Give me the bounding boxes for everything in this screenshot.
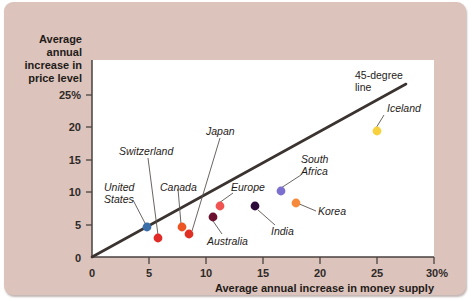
point-label-europe: Europe xyxy=(231,181,265,193)
data-point-canada[interactable] xyxy=(178,223,187,232)
ytick-label-10: 10 xyxy=(69,186,81,198)
xtick-label-10: 10 xyxy=(200,267,212,279)
point-label-united-states-line-1: United xyxy=(104,181,136,193)
ytick-label-20: 20 xyxy=(69,121,81,133)
data-point-korea[interactable] xyxy=(292,199,301,208)
y-axis-title-line-3: increase in xyxy=(25,59,83,71)
ytick-label-0: 0 xyxy=(75,252,81,264)
point-label-iceland: Iceland xyxy=(387,102,422,114)
data-point-japan[interactable] xyxy=(185,230,194,239)
xtick-label-25: 25 xyxy=(371,267,383,279)
ytick-label-25: 25% xyxy=(59,89,81,101)
y-axis-title-line-4: price level xyxy=(28,72,82,84)
xtick-label-30: 30% xyxy=(426,267,448,279)
xtick-label-0: 0 xyxy=(89,267,95,279)
point-label-south-africa-line-2: Africa xyxy=(300,165,328,177)
data-point-india[interactable] xyxy=(251,202,260,211)
data-point-switzerland[interactable] xyxy=(154,234,163,243)
xtick-label-5: 5 xyxy=(146,267,152,279)
x-axis-ticks xyxy=(149,257,434,264)
point-label-japan: Japan xyxy=(205,125,235,137)
point-label-canada: Canada xyxy=(160,181,197,193)
xtick-label-15: 15 xyxy=(257,267,269,279)
data-point-australia[interactable] xyxy=(209,213,218,222)
data-point-europe[interactable] xyxy=(216,202,225,211)
forty-five-degree-line xyxy=(92,84,406,257)
y-axis-title-line-2: annual xyxy=(47,46,82,58)
ytick-label-5: 5 xyxy=(75,219,81,231)
data-point-south-africa[interactable] xyxy=(277,187,286,196)
point-label-india: India xyxy=(271,225,294,237)
label-leader-lines xyxy=(133,115,384,235)
point-label-united-states-line-2: States xyxy=(104,193,135,205)
point-label-south-africa-line-1: South xyxy=(301,153,329,165)
y-axis-ticks xyxy=(86,95,92,225)
data-point-iceland[interactable] xyxy=(373,127,382,136)
chart-svg: 25% 20 15 10 5 0 0 5 10 15 20 25 30% Ave… xyxy=(0,0,472,301)
scatter-chart-figure: 25% 20 15 10 5 0 0 5 10 15 20 25 30% Ave… xyxy=(0,0,472,301)
annotation-45-degree-line-1: 45-degree xyxy=(355,69,403,81)
xtick-label-20: 20 xyxy=(314,267,326,279)
y-axis-title-line-1: Average xyxy=(39,33,82,45)
point-label-switzerland: Switzerland xyxy=(119,145,174,157)
point-label-australia: Australia xyxy=(206,235,248,247)
annotation-45-degree-line-2: line xyxy=(355,81,372,93)
x-axis-title: Average annual increase in money supply xyxy=(215,282,435,294)
data-point-united-states[interactable] xyxy=(143,223,152,232)
point-label-korea: Korea xyxy=(318,205,346,217)
ytick-label-15: 15 xyxy=(69,154,81,166)
